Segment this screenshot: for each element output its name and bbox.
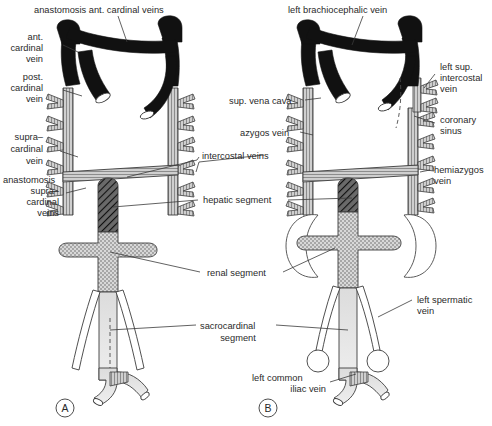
label-sacrocardinal-segment-line2: segment (220, 333, 256, 343)
label-anastomosis-ant-cardinal-veins: anastomosis ant. cardinal veins (34, 5, 164, 15)
label-left-sup-intercostal-line1: left sup. (440, 62, 473, 72)
supracardinal-vein-right-a (168, 88, 178, 215)
label-anastomosis-supracardinal-line4: veins (37, 208, 59, 218)
right-gonad-b (307, 350, 329, 372)
vena-cava-development-diagram: anastomosis ant. cardinal veins ant. car… (0, 0, 492, 426)
anatomical-figure: anastomosis ant. cardinal veins ant. car… (0, 0, 492, 426)
label-anastomosis-supracardinal-line3: cardinal (26, 197, 59, 207)
label-left-sup-intercostal-line2: intercostal (440, 73, 482, 83)
azygos-vein-b (303, 88, 313, 215)
label-left-sup-intercostal-line3: vein (440, 84, 457, 94)
label-renal-segment: renal segment (207, 268, 266, 278)
label-left-common-iliac-line1: left common (252, 373, 303, 383)
label-left-brachiocephalic-vein: left brachiocephalic vein (288, 5, 387, 15)
label-anastomosis-supracardinal-line2: supra– (31, 186, 60, 196)
hepatic-segment-b (338, 178, 358, 212)
label-hemiazygos-vein-line2: vein (434, 176, 451, 186)
supracardinal-vein-left-a (63, 88, 73, 215)
label-coronary-sinus-line2: sinus (440, 126, 462, 136)
sacrocardinal-segment-b (339, 288, 357, 380)
label-post-cardinal-vein-line3: vein (26, 94, 43, 104)
sacrocardinal-segment-a (99, 292, 117, 380)
label-ant-cardinal-vein-line1: ant. (27, 32, 43, 42)
label-azygos-vein: azygos vein (240, 128, 289, 138)
label-post-cardinal-vein-line2: cardinal (10, 83, 43, 93)
label-ant-cardinal-vein-line2: cardinal (10, 43, 43, 53)
panel-b-letter: B (264, 402, 271, 414)
label-left-spermatic-vein-line2: vein (417, 306, 434, 316)
label-post-cardinal-vein-line1: post. (23, 72, 43, 82)
label-sacrocardinal-segment-line1: sacrocardinal (200, 321, 255, 331)
label-anastomosis-supracardinal-line1: anastomosis (3, 175, 56, 185)
label-supracardinal-vein-line1: supra– (15, 132, 44, 142)
label-left-common-iliac-line2: iliac vein (290, 384, 326, 394)
label-coronary-sinus-line1: coronary (440, 115, 477, 125)
label-supracardinal-vein-line2: cardinal (10, 144, 43, 154)
hepatic-segment-a (98, 178, 118, 232)
label-hepatic-segment: hepatic segment (203, 195, 272, 205)
panel-a-letter: A (61, 402, 68, 414)
left-gonad-b (367, 350, 389, 372)
hemiazygos-vein-b (408, 108, 418, 215)
label-left-spermatic-vein-line1: left spermatic (417, 295, 473, 305)
label-supracardinal-vein-line3: vein (26, 156, 43, 166)
label-intercostal-veins: intercostal veins (202, 151, 269, 161)
label-ant-cardinal-vein-line3: vein (26, 54, 43, 64)
label-sup-vena-cava: sup. vena cava (229, 96, 292, 106)
label-hemiazygos-vein-line1: hemiazygos (434, 165, 484, 175)
